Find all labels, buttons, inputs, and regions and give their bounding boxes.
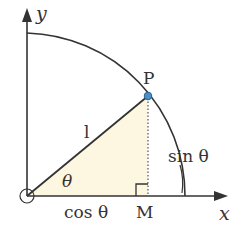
unit-circle-diagram: y x P M l θ cos θ sin θ [0,0,237,235]
point-p-label: P [143,70,154,87]
point-m-label: M [136,204,153,221]
x-axis-arrow-icon [214,191,228,201]
sin-label: sin θ [168,148,209,165]
cos-label: cos θ [64,204,108,221]
x-axis-label: x [219,204,230,223]
angle-label: θ [62,173,72,190]
point-p [144,92,152,100]
hypotenuse-label: l [84,124,89,141]
y-axis-arrow-icon [22,8,32,22]
diagram-graphics [0,0,237,235]
y-axis-label: y [36,4,47,23]
